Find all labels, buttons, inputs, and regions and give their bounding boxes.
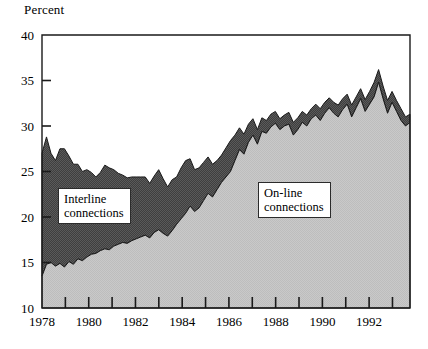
series-label-interline-line1: Interline [64,192,124,206]
series-label-online-connections: On-line connections [258,182,331,218]
y-tick-label: 40 [21,28,34,43]
y-tick-label: 30 [21,119,34,134]
y-axis-tick-labels: 10152025303540 [21,28,34,316]
x-axis-tick-labels: 19781980198219841986198819901992 [29,314,382,329]
x-tick-label: 1984 [169,314,196,329]
x-tick-label: 1992 [356,314,382,329]
area-chart-svg: 10152025303540 1978198019821984198619881… [0,0,428,349]
series-label-online-line1: On-line [264,186,324,200]
series-label-online-line2: connections [264,200,324,214]
x-tick-label: 1982 [122,314,148,329]
y-tick-label: 20 [21,210,34,225]
x-tick-label: 1990 [309,314,335,329]
x-tick-label: 1978 [29,314,55,329]
y-tick-label: 35 [21,73,34,88]
series-label-interline-connections: Interline connections [58,188,131,224]
plot-area: 10152025303540 1978198019821984198619881… [0,0,428,349]
x-tick-label: 1988 [263,314,289,329]
x-tick-label: 1980 [76,314,102,329]
y-tick-label: 25 [21,164,34,179]
x-tick-label: 1986 [216,314,243,329]
chart-figure: Percent [0,0,428,349]
series-label-interline-line2: connections [64,206,124,220]
y-tick-label: 15 [21,255,34,270]
